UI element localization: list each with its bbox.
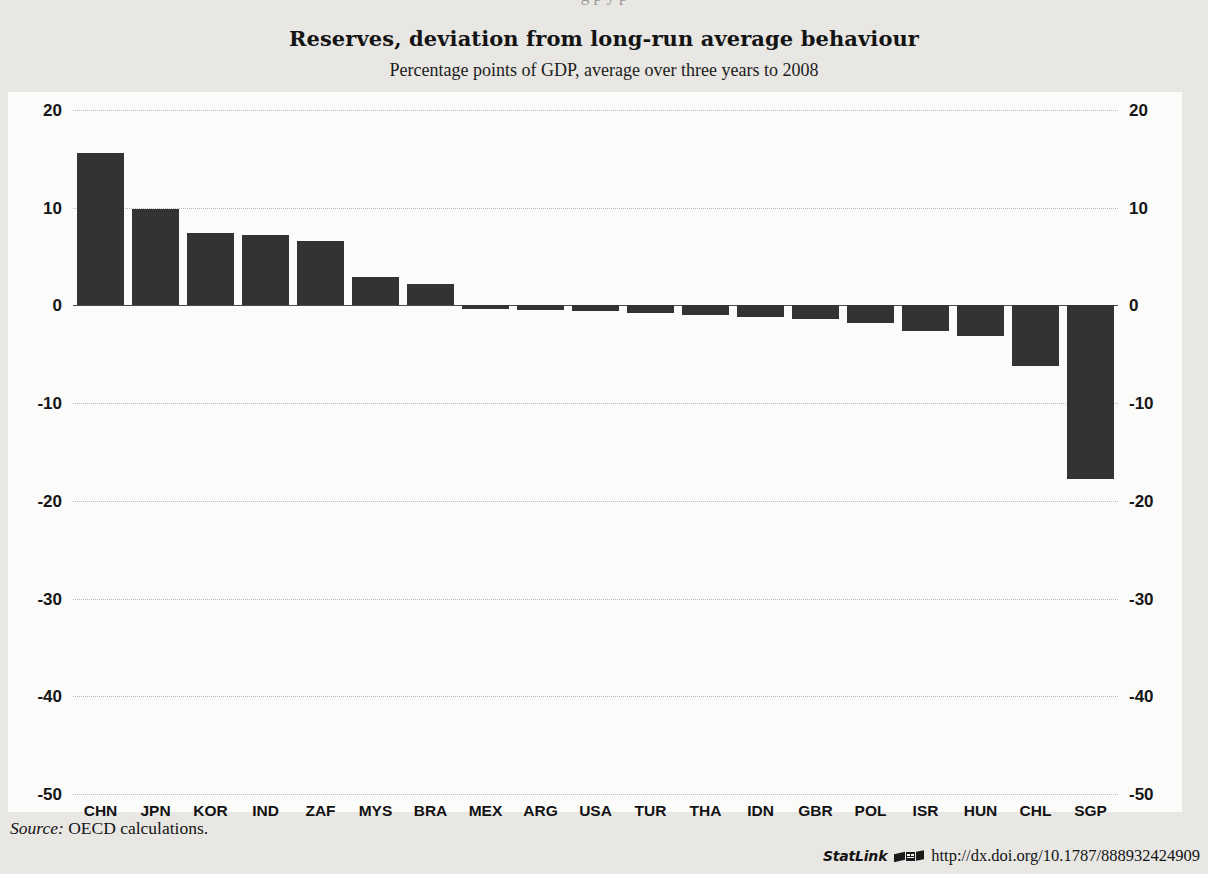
x-axis-label-tur: TUR [623, 803, 678, 819]
x-axis-label-pol: POL [843, 803, 898, 819]
x-axis-label-ind: IND [238, 803, 293, 819]
x-axis-label-kor: KOR [183, 803, 238, 819]
bar-pol [847, 305, 893, 323]
y-axis-tick-left: -50 [37, 786, 62, 803]
bar-tur [627, 305, 673, 313]
plot-panel: 2020101000-10-10-20-20-30-30-40-40-50-50… [8, 92, 1182, 812]
gridline [73, 403, 1118, 404]
figure-reserves-deviation: Reserves, deviation from long-run averag… [0, 0, 1208, 874]
x-axis-label-zaf: ZAF [293, 803, 348, 819]
y-axis-tick-right: 0 [1129, 297, 1138, 314]
bar-arg [517, 305, 563, 310]
y-axis-tick-left: 0 [53, 297, 62, 314]
bar-hun [957, 305, 1003, 335]
x-axis-label-gbr: GBR [788, 803, 843, 819]
bar-mex [462, 305, 508, 309]
gridline [73, 110, 1118, 111]
statlink-spreadsheet-icon [894, 850, 924, 863]
y-axis-tick-left: -20 [37, 493, 62, 510]
y-axis-tick-right: 20 [1129, 102, 1148, 119]
x-axis-label-jpn: JPN [128, 803, 183, 819]
gridline [73, 501, 1118, 502]
statlink-label: StatLink [823, 848, 887, 864]
y-axis-tick-left: -10 [37, 395, 62, 412]
chart-title: Reserves, deviation from long-run averag… [0, 26, 1208, 51]
bar-kor [187, 233, 233, 305]
x-axis-label-arg: ARG [513, 803, 568, 819]
bar-zaf [297, 241, 343, 305]
x-axis-label-sgp: SGP [1063, 803, 1118, 819]
bar-usa [572, 305, 618, 311]
bar-gbr [792, 305, 838, 319]
x-axis-label-idn: IDN [733, 803, 788, 819]
bar-ind [242, 235, 288, 305]
chart-subtitle: Percentage points of GDP, average over t… [0, 60, 1208, 81]
x-axis-label-usa: USA [568, 803, 623, 819]
source-text: OECD calculations. [68, 818, 208, 838]
x-axis-label-hun: HUN [953, 803, 1008, 819]
y-axis-tick-left: -40 [37, 688, 62, 705]
x-axis-label-mys: MYS [348, 803, 403, 819]
y-axis-tick-right: -50 [1129, 786, 1154, 803]
bar-sgp [1067, 305, 1113, 479]
x-axis-label-bra: BRA [403, 803, 458, 819]
y-axis-tick-right: -20 [1129, 493, 1154, 510]
bar-jpn [132, 209, 178, 306]
source-label: Source: [10, 818, 64, 838]
bar-chn [77, 153, 123, 305]
y-axis-tick-left: -30 [37, 591, 62, 608]
gridline [73, 599, 1118, 600]
plot-area: 2020101000-10-10-20-20-30-30-40-40-50-50… [73, 110, 1118, 794]
x-axis-label-chn: CHN [73, 803, 128, 819]
y-axis-tick-right: 10 [1129, 200, 1148, 217]
bar-chl [1012, 305, 1058, 366]
y-axis-tick-left: 10 [43, 200, 62, 217]
y-axis-tick-left: 20 [43, 102, 62, 119]
x-axis-label-chl: CHL [1008, 803, 1063, 819]
bar-bra [407, 284, 453, 305]
x-axis-label-isr: ISR [898, 803, 953, 819]
source-note: Source: OECD calculations. [10, 818, 208, 839]
statlink-url[interactable]: http://dx.doi.org/10.1787/888932424909 [931, 846, 1200, 866]
gridline [73, 208, 1118, 209]
bar-isr [902, 305, 948, 330]
y-axis-tick-right: -40 [1129, 688, 1154, 705]
bar-idn [737, 305, 783, 317]
bar-tha [682, 305, 728, 315]
gridline [73, 794, 1118, 795]
gridline [73, 696, 1118, 697]
bar-mys [352, 277, 398, 305]
y-axis-tick-right: -30 [1129, 591, 1154, 608]
x-axis-label-tha: THA [678, 803, 733, 819]
x-axis-label-mex: MEX [458, 803, 513, 819]
statlink-footer[interactable]: StatLink http://dx.doi.org/10.1787/88893… [823, 846, 1200, 866]
y-axis-tick-right: -10 [1129, 395, 1154, 412]
